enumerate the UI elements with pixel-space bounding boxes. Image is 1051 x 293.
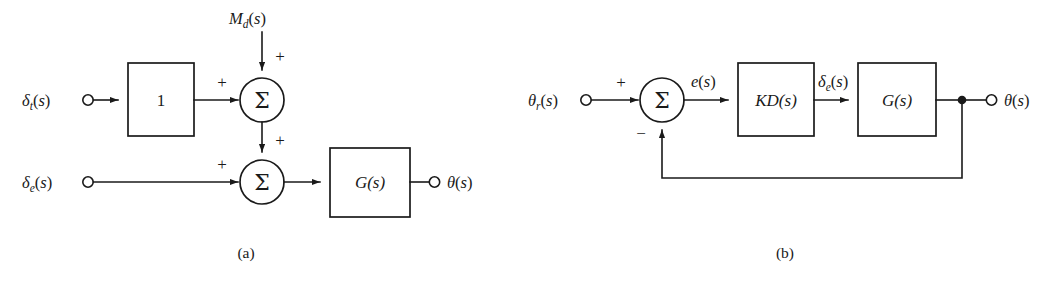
throttle-input-label: δt(s): [22, 91, 50, 112]
throttle-input-node[interactable]: [83, 95, 93, 105]
caption-b: (b): [776, 244, 794, 262]
diagram-a-group: δt(s) 1 + Md(s) + Σ + δe(s) +: [22, 9, 473, 262]
sum-plus-sign-b: +: [616, 73, 626, 92]
error-signal-label: e(s): [691, 72, 716, 91]
summing-junction-b-glyph: Σ: [654, 88, 670, 113]
caption-a: (a): [237, 244, 254, 262]
plant-block-b-label: G(s): [882, 91, 913, 110]
theta-output-label-a: θ(s): [447, 173, 473, 192]
reference-input-label: θr(s): [528, 91, 558, 112]
gain-block-label: 1: [157, 91, 166, 110]
elevator-input-node[interactable]: [83, 177, 93, 187]
summing-junction-top-glyph: Σ: [254, 88, 270, 113]
sum-top-disturbance-plus-sign: +: [275, 47, 285, 66]
theta-output-node-a[interactable]: [429, 177, 439, 187]
reference-input-node[interactable]: [581, 95, 591, 105]
block-diagram-figure: δt(s) 1 + Md(s) + Σ + δe(s) +: [0, 0, 1051, 293]
theta-output-label-b: θ(s): [1004, 91, 1030, 110]
elevator-signal-label-b: δe(s): [818, 72, 848, 93]
diagram-b-group: θr(s) + Σ − e(s) KD(s) δe(s) G(s): [528, 63, 1030, 262]
controller-block-label: KD(s): [754, 91, 797, 110]
summing-junction-bottom-glyph: Σ: [254, 170, 270, 195]
disturbance-input-label: Md(s): [228, 9, 266, 30]
plant-block-a-label: G(s): [355, 173, 386, 192]
sum-bottom-top-plus-sign: +: [275, 131, 285, 150]
sum-top-input-plus-sign: +: [217, 73, 227, 92]
sum-minus-sign-b: −: [636, 124, 646, 143]
diagram-canvas: δt(s) 1 + Md(s) + Σ + δe(s) +: [0, 0, 1051, 293]
elevator-input-label: δe(s): [22, 173, 52, 194]
theta-output-node-b[interactable]: [986, 95, 996, 105]
sum-bottom-input-plus-sign: +: [217, 155, 227, 174]
